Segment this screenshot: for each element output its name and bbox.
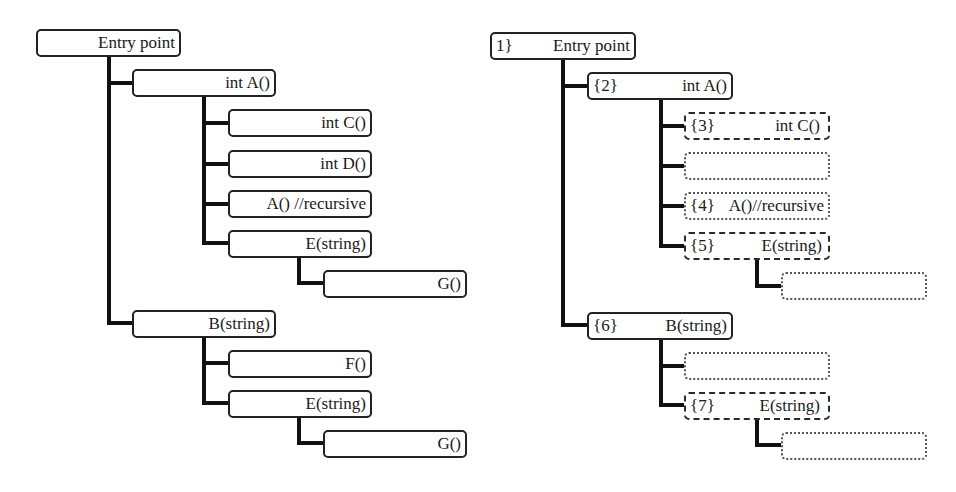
node-label: int D() — [320, 152, 366, 176]
node-index: {6} — [593, 314, 618, 338]
connector — [755, 284, 782, 288]
left-node-g-1[interactable]: G() — [323, 270, 467, 298]
node-label: G() — [437, 432, 461, 456]
connector — [659, 99, 663, 248]
node-index: {5} — [690, 234, 715, 258]
connector — [202, 202, 229, 206]
connector — [202, 241, 229, 245]
node-label: B(string) — [209, 312, 270, 336]
node-label: int C() — [321, 111, 366, 135]
left-node-int-c[interactable]: int C() — [228, 109, 372, 137]
connector — [659, 124, 685, 128]
left-node-entry-point[interactable]: Entry point — [36, 29, 181, 57]
node-label: G() — [437, 272, 461, 296]
left-node-int-d[interactable]: int D() — [228, 150, 372, 178]
call-tree-diagram: Entry point int A() int C() int D() A() … — [0, 0, 956, 492]
right-node-entry-point[interactable]: 1} Entry point — [490, 32, 636, 60]
right-node-int-c[interactable]: {3} int C() — [684, 112, 830, 140]
node-label: E(string) — [760, 394, 820, 418]
right-node-int-a[interactable]: {2} int A() — [587, 72, 733, 100]
node-label: F() — [345, 352, 366, 376]
right-node-empty-g-1[interactable] — [781, 272, 927, 300]
node-label: int C() — [775, 114, 820, 138]
right-node-a-recursive[interactable]: {4} A()//recursive — [684, 192, 830, 220]
connector — [297, 441, 324, 445]
connector — [659, 164, 685, 168]
right-node-b-string[interactable]: {6} B(string) — [587, 312, 733, 340]
left-node-int-a[interactable]: int A() — [132, 69, 276, 97]
connector — [755, 443, 782, 447]
connector — [659, 364, 685, 368]
connector — [297, 281, 324, 285]
connector — [202, 121, 229, 125]
connector — [659, 204, 685, 208]
left-node-g-2[interactable]: G() — [323, 430, 467, 458]
node-label: int A() — [225, 71, 270, 95]
node-label: E(string) — [306, 232, 366, 256]
left-node-e-string-1[interactable]: E(string) — [228, 230, 372, 258]
connector — [659, 403, 685, 407]
node-label: E(string) — [306, 392, 366, 416]
connector — [755, 259, 759, 287]
left-node-a-recursive[interactable]: A() //recursive — [228, 190, 372, 218]
connector — [107, 56, 111, 323]
node-label: B(string) — [666, 314, 727, 338]
left-node-f[interactable]: F() — [228, 350, 372, 378]
node-label: int A() — [682, 74, 727, 98]
node-label: Entry point — [553, 34, 630, 58]
right-node-empty-f[interactable] — [684, 352, 830, 380]
connector — [107, 321, 133, 325]
node-label: A()//recursive — [729, 194, 824, 218]
left-node-b-string[interactable]: B(string) — [132, 310, 276, 338]
node-index: 1} — [496, 34, 513, 58]
right-node-empty-g-2[interactable] — [781, 432, 927, 460]
connector — [202, 401, 229, 405]
node-index: {4} — [690, 194, 715, 218]
node-label: A() //recursive — [266, 192, 366, 216]
connector — [561, 59, 565, 327]
connector — [202, 361, 229, 365]
right-node-e-string-1[interactable]: {5} E(string) — [684, 232, 830, 260]
connector — [202, 337, 206, 405]
right-node-empty-d[interactable] — [684, 152, 830, 180]
node-index: {7} — [690, 394, 715, 418]
connector — [561, 323, 588, 327]
connector — [659, 339, 663, 407]
connector — [202, 97, 206, 245]
connector — [202, 162, 229, 166]
connector — [561, 84, 588, 88]
node-index: {2} — [593, 74, 618, 98]
right-node-e-string-2[interactable]: {7} E(string) — [684, 392, 830, 420]
node-index: {3} — [690, 114, 715, 138]
node-label: Entry point — [98, 31, 175, 55]
left-node-e-string-2[interactable]: E(string) — [228, 390, 372, 418]
connector — [659, 244, 685, 248]
connector — [107, 81, 133, 85]
node-label: E(string) — [762, 234, 822, 258]
